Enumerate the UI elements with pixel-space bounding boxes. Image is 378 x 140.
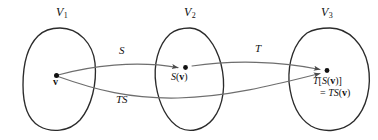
map-label-S: S [119,45,125,57]
point-label-middle-sv: S(v) [171,72,188,83]
space-label-v3: V3 [321,6,333,21]
map-label-TS: TS [116,94,128,106]
space-label-v3-subscript: 3 [329,11,333,20]
diagram-svg [0,0,378,140]
space-label-v1-letter: V [56,5,63,19]
map-label-T: T [255,43,261,55]
space-blob-v1 [23,28,95,130]
target-line-1: T[S(v)] [313,75,342,86]
point-label-target-tsv: T[S(v)] = TS(v) [313,76,350,98]
arrow-S [58,64,178,75]
target-bracket-close: ] [339,75,342,86]
space-blob-v2 [155,28,223,130]
space-label-v3-letter: V [321,5,328,19]
target-paren-close-2: ) [347,87,350,98]
space-label-v2-letter: V [184,5,191,19]
diagram-canvas: V1 V2 V3 S T TS v S(v) T[S(v)] = TS(v) [0,0,378,140]
space-label-v1: V1 [56,6,68,21]
space-label-v2: V2 [184,6,196,21]
target-line-2: = TS(v) [313,88,350,99]
dot-target-tsv [325,68,330,73]
dot-middle-sv [183,65,188,70]
arrow-TS [58,74,320,99]
target-prefix-TS: TS [328,87,339,98]
space-label-v2-subscript: 2 [192,11,196,20]
target-equals: = [320,87,326,98]
arrow-T [192,62,320,69]
space-label-v1-subscript: 1 [64,11,68,20]
point-label-source-v: v [53,77,58,88]
middle-paren-close: ) [184,71,187,82]
